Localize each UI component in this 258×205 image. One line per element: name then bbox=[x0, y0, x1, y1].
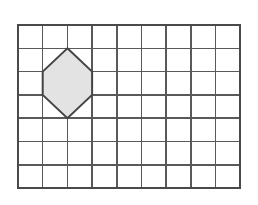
figure-background bbox=[0, 0, 258, 205]
grid-hexagon-diagram bbox=[0, 0, 258, 205]
figure-root bbox=[0, 0, 258, 205]
